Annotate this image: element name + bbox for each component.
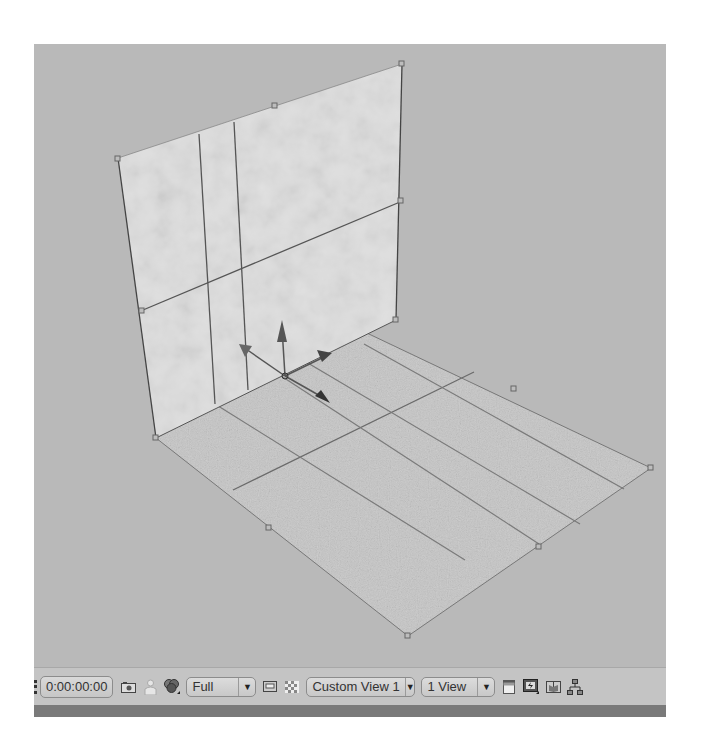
composition-viewport[interactable] xyxy=(34,44,666,667)
fast-previews-icon[interactable] xyxy=(522,678,540,696)
timecode-button[interactable]: 0:00:00:00 xyxy=(40,676,113,698)
camera-snapshot-icon[interactable] xyxy=(119,678,137,696)
composition-viewer: 0:00:00:00 Full ▼ Custom View 1 ▼ 1 View… xyxy=(34,44,666,717)
person-snapshot-icon[interactable] xyxy=(141,678,159,696)
viewer-bottom-border xyxy=(34,705,666,717)
region-of-interest-icon[interactable] xyxy=(261,678,279,696)
flowchart-icon[interactable] xyxy=(566,678,584,696)
transparency-grid-icon[interactable] xyxy=(283,678,301,696)
viewer-toolbar: 0:00:00:00 Full ▼ Custom View 1 ▼ 1 View… xyxy=(34,667,666,705)
view-layout-value: 1 View xyxy=(422,679,477,694)
view-layout-dropdown[interactable]: 1 View ▼ xyxy=(421,677,495,697)
view-camera-value: Custom View 1 xyxy=(307,679,404,694)
chevron-down-icon: ▼ xyxy=(477,678,494,696)
resolution-value: Full xyxy=(187,679,238,694)
resolution-dropdown[interactable]: Full ▼ xyxy=(186,677,256,697)
timeline-icon[interactable] xyxy=(544,678,562,696)
view-camera-dropdown[interactable]: Custom View 1 ▼ xyxy=(306,677,415,697)
chevron-down-icon: ▼ xyxy=(238,678,255,696)
pixel-aspect-icon[interactable] xyxy=(500,678,518,696)
rgb-channels-icon[interactable] xyxy=(163,678,181,696)
toolbar-grip-icon[interactable] xyxy=(34,680,38,694)
chevron-down-icon: ▼ xyxy=(405,678,415,696)
3d-scene xyxy=(34,44,666,667)
